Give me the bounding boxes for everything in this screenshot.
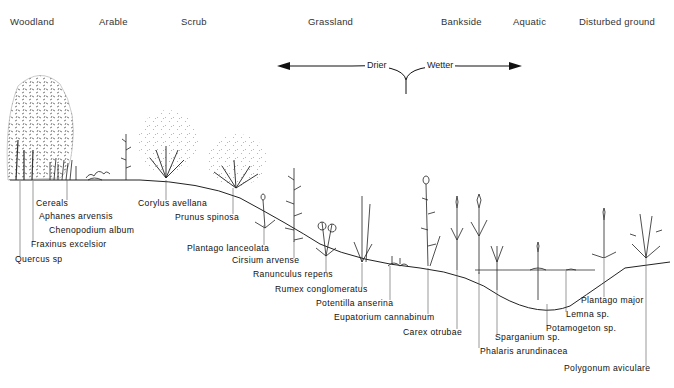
vegetation-profile-diagram: Woodland Arable Scrub Grassland Bankside…: [0, 0, 674, 388]
habitat-label-disturbed-ground: Disturbed ground: [579, 16, 655, 27]
habitat-label-aquatic: Aquatic: [513, 16, 546, 27]
moisture-gradient-arrow: [277, 62, 522, 94]
habitat-label-bankside: Bankside: [441, 16, 482, 27]
aquatic-plants-drawing: [530, 242, 576, 300]
grassland-plants-drawing: [255, 168, 440, 266]
habitat-label-woodland: Woodland: [10, 16, 54, 27]
species-label-eupatorium-cannabinum: Eupatorium cannabinum: [334, 312, 435, 322]
species-label-cereals: Cereals: [36, 198, 68, 208]
species-label-chenopodium-album: Chenopodium album: [49, 225, 134, 235]
prunus-shrub-drawing: [207, 134, 267, 188]
species-label-fraxinus-excelsior: Fraxinus excelsior: [31, 239, 107, 249]
species-label-plantago-major: Plantago major: [581, 295, 644, 305]
species-label-corylus-avellana: Corylus avellana: [138, 198, 207, 208]
habitat-label-grassland: Grassland: [308, 16, 353, 27]
disturbed-ground-plants-drawing: [592, 208, 662, 258]
species-label-potamogeton: Potamogeton sp.: [546, 323, 616, 333]
gradient-label-wetter: Wetter: [425, 60, 455, 70]
species-label-rumex-conglomeratus: Rumex conglomeratus: [275, 284, 368, 294]
species-label-sparganium: Sparganium sp.: [495, 332, 560, 342]
habitat-label-scrub: Scrub: [181, 16, 207, 27]
species-label-lemna: Lemna sp.: [566, 309, 609, 319]
species-label-quercus: Quercus sp: [15, 254, 62, 264]
gradient-label-drier: Drier: [365, 60, 389, 70]
species-label-cirsium-arvense: Cirsium arvense: [232, 255, 299, 265]
species-label-potentilla-anserina: Potentilla anserina: [316, 298, 393, 308]
species-label-phalaris-arundinacea: Phalaris arundinacea: [480, 346, 568, 356]
species-label-prunus-spinosa: Prunus spinosa: [175, 212, 239, 222]
species-label-polygonum-aviculare: Polygonum aviculare: [564, 363, 650, 373]
habitat-label-arable: Arable: [99, 16, 128, 27]
species-label-carex-otrubae: Carex otrubae: [403, 327, 462, 337]
species-label-ranunculus-repens: Ranunculus repens: [253, 269, 333, 279]
species-label-plantago-lanceolata: Plantago lanceolata: [187, 243, 269, 253]
corylus-shrub-drawing: [138, 110, 198, 178]
species-label-aphanes-arvensis: Aphanes arvensis: [39, 211, 113, 221]
